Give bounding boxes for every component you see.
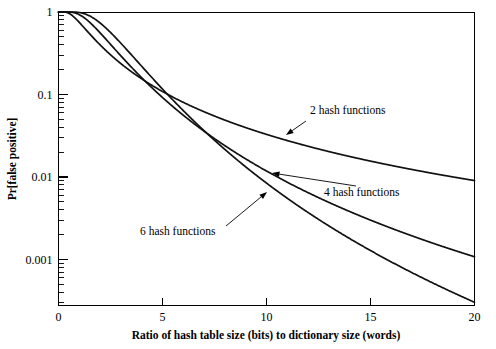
y-tick-label: 0.01 bbox=[32, 170, 53, 184]
y-tick-label: 0.1 bbox=[38, 88, 53, 102]
chart-series-curves bbox=[59, 12, 475, 302]
x-tick-label: 15 bbox=[365, 310, 377, 324]
y-tick-label: 0.001 bbox=[26, 253, 53, 267]
y-tick-label: 1 bbox=[47, 5, 53, 19]
annotation-group-3: 6 hash functions bbox=[140, 192, 267, 237]
x-axis-title: Ratio of hash table size (bits) to dicti… bbox=[132, 329, 401, 342]
y-axis-title: Pr[false positive] bbox=[6, 118, 19, 201]
x-tick-label: 0 bbox=[56, 310, 62, 324]
x-axis-ticks bbox=[59, 298, 475, 306]
x-axis-tick-labels: 05101520 bbox=[56, 310, 481, 324]
annotation-label-2: 4 hash functions bbox=[324, 186, 400, 198]
chart-canvas: 10.10.010.001 05101520 2 hash functions4… bbox=[0, 0, 496, 349]
annotation-label-1: 2 hash functions bbox=[310, 104, 386, 116]
annotation-arrowhead-1 bbox=[286, 128, 294, 135]
x-tick-label: 10 bbox=[261, 310, 273, 324]
annotation-group-1: 2 hash functions bbox=[286, 104, 386, 135]
annotation-leader-line-1 bbox=[292, 121, 306, 131]
annotation-label-3: 6 hash functions bbox=[140, 225, 216, 237]
annotation-leader-line-3 bbox=[226, 197, 261, 226]
x-tick-label: 20 bbox=[469, 310, 481, 324]
series-curve-1 bbox=[59, 12, 475, 181]
y-axis-tick-labels: 10.10.010.001 bbox=[26, 5, 53, 267]
x-tick-label: 5 bbox=[160, 310, 166, 324]
y-axis-ticks bbox=[59, 12, 68, 303]
bloom-filter-false-positive-chart: 10.10.010.001 05101520 2 hash functions4… bbox=[0, 0, 496, 349]
